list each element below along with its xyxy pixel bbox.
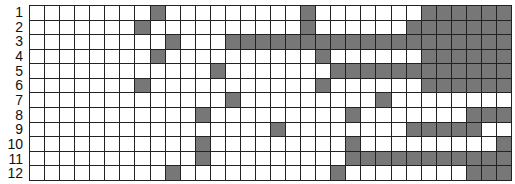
grid-cell-empty: [30, 21, 45, 36]
grid-cell-empty: [316, 137, 331, 152]
grid-cell-empty: [181, 6, 196, 21]
grid-cell-filled: [467, 21, 482, 36]
grid-cell-empty: [467, 93, 482, 108]
grid-cell-filled: [422, 35, 437, 50]
grid-cell-filled: [226, 93, 241, 108]
grid-cell-filled: [361, 64, 376, 79]
grid-cell-empty: [301, 108, 316, 123]
row-label: 4: [0, 49, 23, 64]
grid-cell-empty: [166, 137, 181, 152]
grid-cell-empty: [135, 64, 150, 79]
grid-cell-empty: [392, 137, 407, 152]
grid-cell-empty: [241, 6, 256, 21]
grid-cell-empty: [105, 108, 120, 123]
grid-cell-empty: [392, 79, 407, 94]
grid-cell-filled: [271, 35, 286, 50]
grid-cell-empty: [376, 21, 391, 36]
grid-cell-empty: [75, 35, 90, 50]
grid-cell-filled: [196, 108, 211, 123]
grid-cell-empty: [346, 21, 361, 36]
grid-cell-filled: [452, 123, 467, 138]
grid-cell-filled: [497, 21, 512, 36]
grid-cell-empty: [75, 64, 90, 79]
grid-cell-filled: [407, 21, 422, 36]
grid-cell-empty: [90, 137, 105, 152]
grid-cell-empty: [407, 79, 422, 94]
grid-cell-empty: [301, 79, 316, 94]
grid-cell-empty: [361, 50, 376, 65]
grid-cell-empty: [30, 137, 45, 152]
grid-cell-empty: [211, 166, 226, 181]
grid-cell-empty: [376, 123, 391, 138]
grid-cell-empty: [256, 137, 271, 152]
grid-cell-empty: [90, 152, 105, 167]
grid-cell-empty: [75, 6, 90, 21]
grid-cell-filled: [497, 79, 512, 94]
grid-cell-empty: [45, 64, 60, 79]
grid-cell-filled: [211, 64, 226, 79]
grid-cell-filled: [241, 35, 256, 50]
grid-cell-empty: [226, 123, 241, 138]
grid-cell-empty: [286, 93, 301, 108]
grid-cell-filled: [376, 64, 391, 79]
grid-cell-filled: [226, 35, 241, 50]
grid-cell-empty: [211, 6, 226, 21]
grid-cell-empty: [45, 35, 60, 50]
grid-cell-empty: [437, 166, 452, 181]
grid-cell-empty: [392, 166, 407, 181]
grid-cell-empty: [151, 152, 166, 167]
grid-cell-filled: [467, 152, 482, 167]
grid-cell-filled: [482, 21, 497, 36]
grid-cell-empty: [241, 166, 256, 181]
grid-cell-empty: [286, 79, 301, 94]
grid-cell-empty: [422, 93, 437, 108]
grid-cell-empty: [90, 79, 105, 94]
grid-cell-filled: [422, 79, 437, 94]
grid-cell-empty: [181, 93, 196, 108]
grid-cell-empty: [226, 79, 241, 94]
grid-cell-empty: [30, 166, 45, 181]
grid-cell-filled: [346, 35, 361, 50]
grid-cell-empty: [196, 50, 211, 65]
grid-cell-empty: [105, 79, 120, 94]
grid-cell-empty: [30, 6, 45, 21]
grid-cell-filled: [467, 123, 482, 138]
grid-cell-empty: [271, 166, 286, 181]
grid-cell-filled: [196, 152, 211, 167]
grid-cell-filled: [452, 64, 467, 79]
pixel-grid: [29, 5, 512, 181]
grid-cell-filled: [376, 152, 391, 167]
grid-cell-filled: [422, 21, 437, 36]
grid-cell-empty: [90, 21, 105, 36]
grid-cell-empty: [301, 123, 316, 138]
grid-cell-filled: [346, 64, 361, 79]
grid-cell-empty: [166, 123, 181, 138]
grid-cell-empty: [90, 50, 105, 65]
grid-cell-empty: [271, 108, 286, 123]
grid-cell-empty: [60, 79, 75, 94]
grid-cell-empty: [151, 93, 166, 108]
grid-cell-empty: [316, 64, 331, 79]
grid-cell-empty: [60, 35, 75, 50]
grid-cell-filled: [151, 50, 166, 65]
grid-cell-empty: [181, 137, 196, 152]
grid-cell-empty: [256, 93, 271, 108]
grid-cell-empty: [151, 21, 166, 36]
grid-cell-empty: [316, 166, 331, 181]
grid-cell-empty: [392, 21, 407, 36]
grid-cell-empty: [45, 137, 60, 152]
grid-cell-empty: [90, 93, 105, 108]
grid-cell-empty: [105, 6, 120, 21]
grid-cell-empty: [331, 152, 346, 167]
grid-cell-empty: [331, 21, 346, 36]
grid-cell-empty: [286, 152, 301, 167]
grid-cell-empty: [151, 108, 166, 123]
grid-cell-empty: [45, 123, 60, 138]
grid-cell-empty: [331, 137, 346, 152]
grid-cell-empty: [226, 166, 241, 181]
grid-cell-empty: [105, 50, 120, 65]
grid-cell-filled: [482, 108, 497, 123]
grid-cell-empty: [120, 6, 135, 21]
grid-cell-empty: [120, 137, 135, 152]
grid-cell-empty: [166, 21, 181, 36]
